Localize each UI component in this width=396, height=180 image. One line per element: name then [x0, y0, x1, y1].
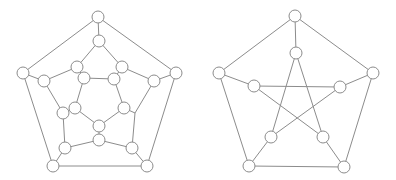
- graph-node: [243, 160, 255, 172]
- graph-node: [59, 142, 71, 154]
- graph-node: [69, 102, 81, 114]
- edges: [219, 16, 373, 167]
- graph-node: [116, 61, 128, 73]
- graph-edge: [23, 17, 98, 73]
- graph-node: [47, 160, 59, 172]
- graph-node: [93, 134, 105, 146]
- petersen-graph: [213, 10, 379, 173]
- graph-node: [289, 10, 301, 22]
- graph-node: [93, 35, 105, 47]
- graph-node: [92, 11, 104, 23]
- dodecahedral-graph: [17, 11, 182, 172]
- graph-node: [148, 75, 160, 87]
- graph-node: [213, 67, 225, 79]
- graph-diagram-canvas: [0, 0, 396, 180]
- graph-node: [38, 75, 50, 87]
- graph-node: [57, 107, 69, 119]
- graph-node: [118, 102, 130, 114]
- nodes: [17, 11, 182, 172]
- graph-node: [71, 61, 83, 73]
- graph-node: [248, 80, 260, 92]
- graph-node: [367, 67, 379, 79]
- graph-edge: [23, 73, 53, 166]
- graph-edge: [249, 166, 344, 167]
- graph-node: [334, 81, 346, 93]
- graph-edge: [147, 73, 176, 166]
- graph-node: [93, 120, 105, 132]
- graph-edge: [98, 17, 176, 73]
- graph-node: [78, 72, 90, 84]
- graph-node: [290, 47, 302, 59]
- graph-node: [338, 161, 350, 173]
- graph-node: [108, 73, 120, 85]
- graph-node: [17, 67, 29, 79]
- graph-edge: [344, 73, 373, 167]
- nodes: [213, 10, 379, 173]
- graph-node: [317, 131, 329, 143]
- graph-edge: [254, 86, 323, 137]
- graph-edge: [254, 86, 340, 87]
- graph-node: [265, 131, 277, 143]
- graph-node: [126, 142, 138, 154]
- graph-edge: [296, 53, 323, 137]
- graph-edge: [271, 87, 340, 137]
- graph-edge: [295, 16, 373, 73]
- graph-edge: [219, 73, 249, 166]
- graph-node: [141, 160, 153, 172]
- graph-edge: [219, 16, 295, 73]
- graph-node: [170, 67, 182, 79]
- graph-edge: [271, 53, 296, 137]
